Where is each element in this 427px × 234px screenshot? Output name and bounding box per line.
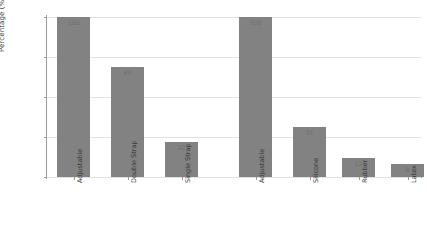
bar-value-label: 12 bbox=[342, 161, 375, 167]
bar-value-label: 22 bbox=[165, 145, 198, 151]
x-tick-label: Rubber bbox=[362, 160, 369, 183]
bar-value-label: 100 bbox=[239, 20, 272, 26]
y-tick-mark bbox=[44, 57, 47, 58]
x-tick-label: Double Strap bbox=[131, 140, 138, 183]
bar: 100 bbox=[239, 17, 272, 177]
y-tick-mark bbox=[44, 177, 47, 178]
x-tick-mark bbox=[359, 177, 360, 180]
x-tick-label: Adjustable bbox=[259, 149, 266, 183]
x-tick-mark bbox=[74, 177, 75, 180]
bar: 31 bbox=[293, 127, 326, 177]
plot-area: 0255075100100Adjustable69Double Strap22S… bbox=[47, 17, 421, 177]
x-tick-label: Latex bbox=[411, 165, 418, 183]
y-tick-mark bbox=[44, 97, 47, 98]
bar-value-label: 69 bbox=[111, 70, 144, 76]
x-tick-mark bbox=[310, 177, 311, 180]
bar-value-label: 31 bbox=[293, 130, 326, 136]
x-tick-label: Single Strap bbox=[185, 143, 192, 183]
bar: 69 bbox=[111, 67, 144, 177]
x-tick-label: Adjustable bbox=[77, 149, 84, 183]
x-tick-mark bbox=[182, 177, 183, 180]
y-axis-title: Percentage (%) bbox=[0, 0, 6, 52]
gridline bbox=[47, 137, 421, 138]
bar: 22 bbox=[165, 142, 198, 177]
bar-value-label: 8 bbox=[391, 167, 424, 173]
x-tick-mark bbox=[408, 177, 409, 180]
gridline bbox=[47, 17, 421, 18]
x-tick-mark bbox=[256, 177, 257, 180]
bar: 100 bbox=[57, 17, 90, 177]
bar: 8 bbox=[391, 164, 424, 177]
y-tick-mark bbox=[44, 17, 47, 18]
x-tick-mark bbox=[128, 177, 129, 180]
y-tick-mark bbox=[44, 137, 47, 138]
bar-value-label: 100 bbox=[57, 20, 90, 26]
gridline bbox=[47, 57, 421, 58]
x-tick-label: Silicone bbox=[313, 158, 320, 183]
bar-chart: Percentage (%) 0255075100100Adjustable69… bbox=[0, 0, 427, 234]
bar: 12 bbox=[342, 158, 375, 177]
gridline bbox=[47, 97, 421, 98]
